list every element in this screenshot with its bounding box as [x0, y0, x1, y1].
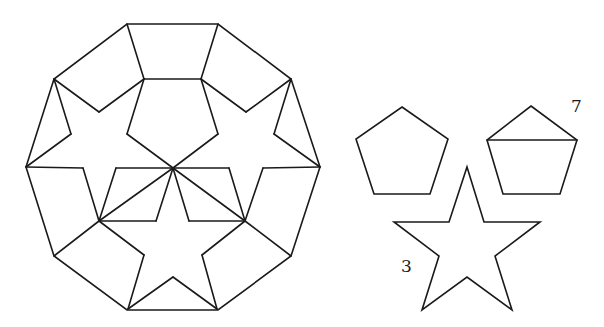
decagon-segment: [156, 168, 173, 221]
decagon-segment: [99, 168, 173, 221]
decagon-segment: [263, 167, 320, 168]
decagon-segment: [127, 24, 144, 79]
decagon-segment: [173, 168, 189, 221]
decagon-segment: [274, 134, 320, 167]
decagon-segment: [128, 277, 173, 309]
tile-pieces: 73: [356, 96, 582, 310]
decagon-segment: [54, 79, 71, 134]
pentagon-piece: [356, 107, 448, 194]
decagon-segment: [83, 168, 99, 221]
tiling-diagram: 73: [0, 0, 604, 327]
decagon-segment: [99, 79, 144, 112]
decagon-segment: [173, 134, 218, 168]
divided-pentagon-outline: [487, 106, 577, 194]
star-count-label: 3: [401, 256, 412, 276]
decagon-segment: [99, 221, 144, 255]
decagon-segment: [173, 168, 245, 221]
decagon-segment: [245, 168, 263, 221]
decagon-segment: [201, 24, 218, 79]
decagon-segment: [202, 221, 245, 255]
decagon-segment: [127, 79, 144, 134]
star-outline: [394, 167, 540, 310]
decagon-segment: [202, 255, 217, 309]
decagon-segment: [229, 168, 245, 221]
decagon-segment: [54, 79, 99, 112]
divided-pentagon-count-label: 7: [571, 96, 582, 116]
star-piece: 3: [394, 167, 540, 310]
decagon-segment: [99, 168, 116, 221]
decagon-segment: [54, 221, 99, 256]
decagon-segment: [274, 79, 291, 134]
divided-pentagon-piece: 7: [487, 96, 582, 194]
decagon-segment: [26, 134, 71, 167]
decagon-segment: [26, 167, 83, 168]
decagon-segment: [245, 221, 291, 256]
decagon-segment: [246, 79, 291, 112]
decagon-segment: [127, 134, 173, 168]
decagon-segment: [128, 255, 144, 309]
decagon-segment: [173, 277, 217, 309]
decagon-segment: [201, 79, 218, 134]
pentagon-outline: [356, 107, 448, 194]
decagon-segment: [201, 79, 246, 112]
decagon-tiling-figure: [26, 24, 320, 310]
